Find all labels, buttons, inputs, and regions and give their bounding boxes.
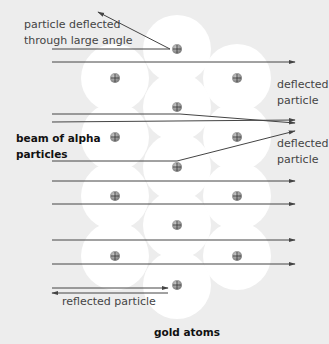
label-large-angle: particle deflected through large angle [24,17,133,49]
nucleus-plus-icon [110,251,120,261]
nucleus-plus-icon [110,132,120,142]
label-deflected-top: deflected particle [277,77,329,109]
label-line: deflected [277,77,329,93]
nucleus-plus-icon [232,73,242,83]
label-reflected: reflected particle [62,294,156,310]
nucleus-plus-icon [110,191,120,201]
nucleus-plus-icon [172,44,182,54]
label-gold-atoms: gold atoms [154,324,220,340]
label-line: particle deflected [24,17,133,33]
nucleus-plus-icon [110,73,120,83]
nucleus-plus-icon [232,132,242,142]
label-line: through large angle [24,33,133,49]
nucleus-plus-icon [232,191,242,201]
nucleus-plus-icon [172,162,182,172]
label-line: deflected [277,136,329,152]
label-line: particle [277,93,329,109]
label-line: beam of alpha [16,130,101,146]
label-line: particles [16,146,101,162]
label-deflected-bottom: deflected particle [277,136,329,168]
nucleus-plus-icon [172,102,182,112]
nucleus-plus-icon [232,251,242,261]
nucleus-plus-icon [172,220,182,230]
label-beam: beam of alpha particles [16,130,101,162]
label-line: particle [277,152,329,168]
nucleus-plus-icon [172,280,182,290]
